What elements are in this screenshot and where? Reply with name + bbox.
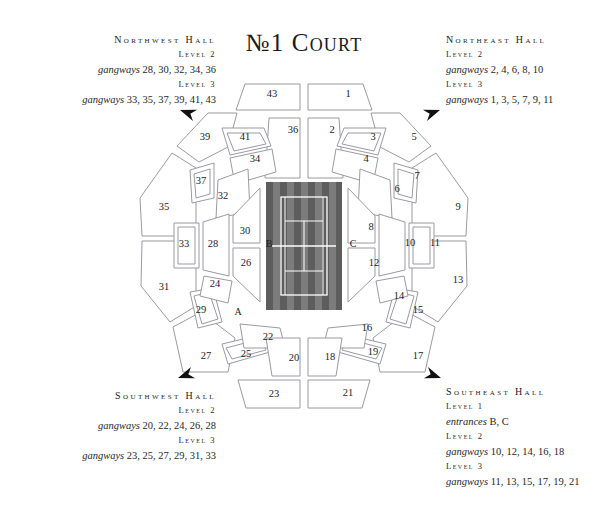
- section-label-41[interactable]: 41: [240, 131, 251, 142]
- section-label-11[interactable]: 11: [430, 237, 440, 248]
- section-label-19[interactable]: 19: [368, 346, 379, 357]
- section-label-3[interactable]: 3: [370, 131, 375, 142]
- section-shape-11-in[interactable]: [413, 227, 430, 264]
- section-label-33[interactable]: 33: [179, 238, 190, 249]
- section-label-20[interactable]: 20: [289, 352, 300, 363]
- section-label-21[interactable]: 21: [343, 387, 354, 398]
- section-label-23[interactable]: 23: [269, 388, 280, 399]
- section-label-29[interactable]: 29: [196, 304, 207, 315]
- section-label-15[interactable]: 15: [413, 304, 424, 315]
- section-label-37[interactable]: 37: [196, 175, 207, 186]
- southeast-arrow: [424, 367, 443, 384]
- section-label-31[interactable]: 31: [159, 281, 170, 292]
- section-shape-12[interactable]: [348, 248, 375, 302]
- entrance-label-C[interactable]: C: [350, 238, 357, 249]
- section-label-28[interactable]: 28: [208, 238, 219, 249]
- tennis-court: [266, 182, 342, 310]
- northeast-arrow: [423, 104, 442, 121]
- section-label-34[interactable]: 34: [250, 153, 261, 164]
- section-label-18[interactable]: 18: [325, 351, 336, 362]
- section-shape-10[interactable]: [379, 214, 405, 276]
- section-label-13[interactable]: 13: [453, 274, 464, 285]
- seating-map-page: №1 Court Northwest Hall Level 2 gangways…: [0, 0, 608, 510]
- section-label-6[interactable]: 6: [394, 183, 399, 194]
- section-label-4[interactable]: 4: [363, 153, 369, 164]
- section-label-7[interactable]: 7: [414, 170, 419, 181]
- section-label-26[interactable]: 26: [241, 257, 252, 268]
- section-label-9[interactable]: 9: [455, 201, 460, 212]
- section-shape-7-in[interactable]: [398, 169, 414, 198]
- section-label-12[interactable]: 12: [369, 257, 380, 268]
- section-label-24[interactable]: 24: [210, 278, 221, 289]
- section-label-39[interactable]: 39: [200, 131, 211, 142]
- section-label-35[interactable]: 35: [159, 201, 170, 212]
- section-label-8[interactable]: 8: [368, 221, 373, 232]
- section-label-30[interactable]: 30: [240, 225, 251, 236]
- northwest-arrow: [178, 104, 197, 121]
- section-shape-21[interactable]: [308, 380, 370, 408]
- section-shape-26[interactable]: [233, 248, 260, 302]
- section-label-22[interactable]: 22: [263, 331, 274, 342]
- section-label-27[interactable]: 27: [201, 350, 212, 361]
- section-label-1[interactable]: 1: [345, 88, 350, 99]
- entrance-label-B[interactable]: B: [266, 238, 273, 249]
- stadium-seating-diagram[interactable]: 1234567891011121314151617181920212223242…: [0, 0, 608, 510]
- section-label-43[interactable]: 43: [267, 88, 278, 99]
- section-label-17[interactable]: 17: [413, 350, 424, 361]
- section-label-5[interactable]: 5: [411, 131, 416, 142]
- section-label-10[interactable]: 10: [405, 237, 416, 248]
- section-label-14[interactable]: 14: [394, 290, 405, 301]
- section-label-32[interactable]: 32: [218, 190, 229, 201]
- section-shape-1[interactable]: [308, 84, 372, 110]
- entrance-label-A[interactable]: A: [234, 306, 242, 317]
- section-label-2[interactable]: 2: [329, 124, 334, 135]
- section-label-25[interactable]: 25: [241, 348, 252, 359]
- section-label-16[interactable]: 16: [362, 322, 373, 333]
- section-label-36[interactable]: 36: [288, 124, 299, 135]
